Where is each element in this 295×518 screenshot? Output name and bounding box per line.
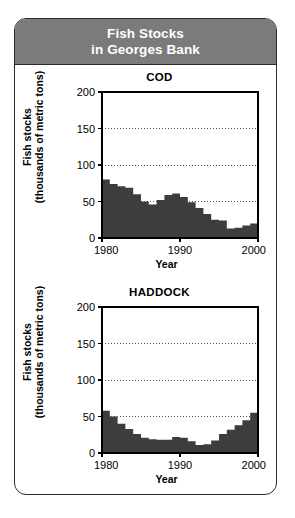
chart-panel-cod: COD Fish stocks (thousands of metric ton… — [15, 65, 277, 280]
figure-card: Fish Stocks in Georges Bank COD Fish sto… — [14, 18, 277, 495]
svg-text:150: 150 — [77, 123, 95, 135]
svg-text:1990: 1990 — [168, 244, 192, 256]
svg-text:150: 150 — [77, 338, 95, 350]
svg-text:50: 50 — [83, 196, 95, 208]
svg-text:1990: 1990 — [168, 459, 192, 471]
svg-text:100: 100 — [77, 159, 95, 171]
svg-text:50: 50 — [83, 411, 95, 423]
figure-title-banner: Fish Stocks in Georges Bank — [15, 19, 276, 65]
svg-text:100: 100 — [77, 374, 95, 386]
x-axis-label-haddock: Year — [15, 473, 277, 485]
svg-text:1980: 1980 — [94, 244, 118, 256]
svg-text:2000: 2000 — [242, 244, 266, 256]
svg-text:200: 200 — [77, 86, 95, 98]
figure-title-line-2: in Georges Bank — [91, 42, 200, 57]
chart-panel-haddock: HADDOCK Fish stocks (thousands of metric… — [15, 280, 277, 495]
figure-title-line-1: Fish Stocks — [107, 26, 184, 41]
svg-text:2000: 2000 — [242, 459, 266, 471]
x-axis-label-cod: Year — [15, 258, 277, 270]
chart-plot-haddock: 050100150200198019902000 — [15, 280, 277, 495]
chart-plot-cod: 050100150200198019902000 — [15, 65, 277, 280]
svg-text:200: 200 — [77, 301, 95, 313]
svg-text:1980: 1980 — [94, 459, 118, 471]
svg-text:0: 0 — [89, 232, 95, 244]
svg-text:0: 0 — [89, 447, 95, 459]
